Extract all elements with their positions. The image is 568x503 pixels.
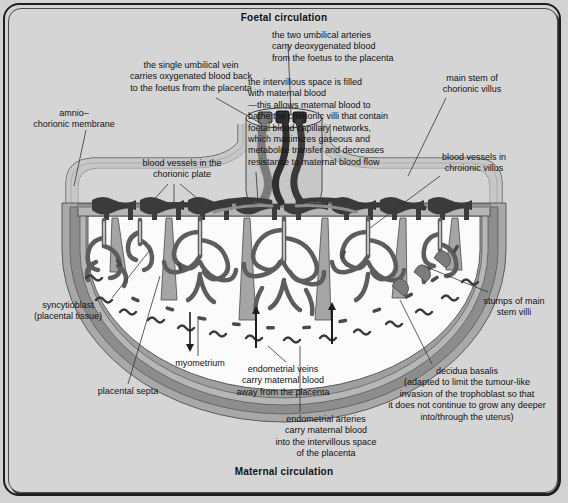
banner-maternal-circulation: Maternal circulation	[0, 466, 568, 477]
label-decidua-basalis: decidua basalis (adapted to limit the tu…	[374, 366, 560, 423]
placental-circulation-figure: Foetal circulation Maternal circulation …	[0, 0, 568, 503]
label-endometrial-veins: endometrial veins carry maternal blood a…	[222, 364, 344, 398]
label-umbilical-arteries: the two umbilical arteries carry deoxyge…	[272, 30, 432, 64]
label-main-stem-of-chorionic-villus: main stem of chorionic villus	[424, 73, 520, 96]
label-umbilical-vein: the single umbilical vein carries oxygen…	[120, 60, 262, 94]
label-villus-blood-vessels: blood vessels in chroionic villus	[424, 152, 524, 175]
label-amnio-chorionic-membrane: amnio– chorionic membrane	[18, 108, 130, 131]
label-placental-septa: placental septa	[80, 386, 176, 397]
label-syncytioblast: syncytioblast (placental tissue)	[14, 300, 122, 323]
label-intervillous-space: the intervillous space is filled with ma…	[248, 77, 423, 168]
banner-foetal-circulation: Foetal circulation	[0, 12, 568, 23]
label-chorionic-plate-vessels: blood vessels in the chorionic plate	[120, 158, 244, 181]
label-stumps-of-main-stem-villi: stumps of main stem villi	[466, 296, 562, 319]
